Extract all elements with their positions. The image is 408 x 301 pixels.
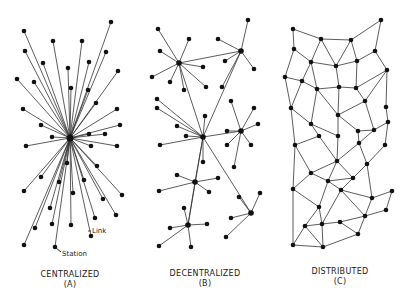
station-node [24, 144, 29, 149]
link [339, 87, 356, 88]
link [159, 225, 188, 246]
station-node [246, 18, 251, 23]
station-node [200, 134, 206, 140]
link [177, 175, 195, 182]
station-node [86, 88, 91, 93]
centralized-network [15, 20, 125, 250]
link [341, 178, 353, 190]
link [157, 108, 203, 137]
link [317, 87, 339, 89]
caption-title: DISTRIBUTED [300, 267, 380, 277]
station-node [205, 222, 210, 227]
station-node [189, 245, 194, 250]
station-node [192, 179, 198, 185]
link [188, 224, 207, 225]
station-node [66, 66, 71, 71]
station-node [319, 37, 324, 42]
link [231, 101, 241, 131]
link [188, 182, 195, 225]
station-node [158, 49, 163, 54]
link [372, 191, 392, 198]
station-node [158, 143, 163, 148]
station-node [220, 85, 225, 90]
station-node [291, 187, 296, 192]
station-node [370, 196, 375, 201]
station-node [156, 27, 161, 32]
station-node [229, 216, 234, 221]
link [160, 137, 203, 145]
station-node [39, 175, 44, 180]
link [294, 49, 311, 62]
station-node [384, 208, 389, 213]
station-node [118, 123, 123, 128]
link [311, 173, 328, 181]
station-node [21, 107, 26, 112]
link [322, 190, 341, 224]
station-node [283, 75, 288, 80]
link [340, 216, 365, 222]
station-node [185, 222, 191, 228]
decentralized-network [150, 18, 263, 250]
link [386, 191, 392, 210]
station-node [115, 144, 120, 149]
station-node [349, 38, 354, 43]
link [328, 181, 341, 190]
link [222, 51, 241, 87]
station-node [39, 123, 44, 128]
link [365, 210, 386, 216]
network-diagrams-figure: Link Station CENTRALIZED (A) DECENTRALIZ… [0, 0, 408, 301]
link [322, 224, 323, 247]
station-node [351, 176, 356, 181]
caption-letter: (A) [30, 280, 110, 290]
caption-distributed: DISTRIBUTED (C) [300, 267, 380, 287]
station-node [320, 222, 325, 227]
link [43, 63, 70, 138]
station-node [225, 143, 230, 148]
link [177, 126, 203, 137]
link [218, 39, 241, 51]
station-node [373, 49, 378, 54]
station-node [338, 220, 343, 225]
caption-title: CENTRALIZED [30, 270, 110, 280]
link [356, 88, 365, 101]
caption-letter: (C) [300, 277, 380, 287]
station-node [356, 232, 361, 237]
link [341, 190, 372, 198]
link [317, 89, 338, 115]
link [358, 216, 365, 234]
link [203, 51, 241, 137]
station-node [326, 179, 331, 184]
station-node [203, 114, 208, 119]
station-node [335, 159, 340, 164]
station-node [383, 143, 388, 148]
station-node [201, 65, 206, 70]
station-node [384, 105, 389, 110]
station-node [187, 37, 192, 42]
station-node [390, 189, 395, 194]
link [305, 224, 322, 226]
station-node [184, 134, 189, 139]
link [293, 29, 321, 39]
station-node [93, 216, 98, 221]
station-node [155, 106, 160, 111]
station-node [120, 193, 125, 198]
station-node [363, 214, 368, 219]
station-node [182, 206, 187, 211]
link [385, 122, 388, 145]
station-node [150, 75, 155, 80]
station-node [321, 245, 326, 250]
station-node [157, 189, 162, 194]
link [295, 145, 311, 173]
station-node [22, 189, 27, 194]
station-node [225, 129, 230, 134]
link [337, 136, 338, 161]
station-node [115, 107, 120, 112]
link [305, 226, 323, 247]
link [24, 138, 70, 245]
link [356, 70, 387, 88]
link-annotation: Link [92, 227, 106, 235]
link [55, 138, 70, 247]
station-node [101, 197, 106, 202]
link [340, 222, 358, 234]
link [353, 164, 367, 178]
